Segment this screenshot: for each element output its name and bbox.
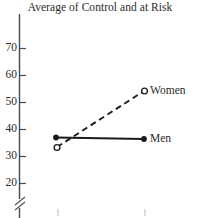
plot-area [0, 0, 200, 218]
y-axis-label-20: 20 [0, 176, 17, 188]
data-point-women-control [54, 145, 60, 151]
chart-container: Average of Control and at Risk [0, 0, 200, 218]
y-axis-label-40: 40 [0, 122, 17, 134]
x-axis-ticks [58, 209, 145, 216]
y-axis-label-70: 70 [0, 41, 17, 53]
data-point-women-at-risk [142, 88, 148, 94]
series-label-women: Women [150, 84, 185, 96]
data-point-men-at-risk [141, 136, 147, 142]
y-axis-label-60: 60 [0, 68, 17, 80]
y-axis-label-50: 50 [0, 95, 17, 107]
y-axis-label-30: 30 [0, 149, 17, 161]
data-point-men-control [53, 135, 59, 141]
y-axis-ticks [20, 49, 27, 184]
series-label-men: Men [150, 132, 171, 144]
